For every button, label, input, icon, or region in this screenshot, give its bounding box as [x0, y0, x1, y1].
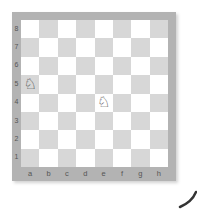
square-c2[interactable]: [58, 130, 76, 148]
square-c5[interactable]: [58, 75, 76, 93]
square-a8[interactable]: [21, 20, 39, 38]
square-a6[interactable]: [21, 57, 39, 75]
square-f2[interactable]: [113, 130, 131, 148]
file-label-h: h: [150, 169, 168, 178]
file-label-a: a: [21, 169, 39, 178]
chess-board: ♘♘: [21, 20, 168, 167]
square-e2[interactable]: [95, 130, 113, 148]
square-e8[interactable]: [95, 20, 113, 38]
square-b6[interactable]: [39, 57, 57, 75]
square-e1[interactable]: [95, 149, 113, 167]
square-h8[interactable]: [150, 20, 168, 38]
square-f3[interactable]: [113, 112, 131, 130]
square-c8[interactable]: [58, 20, 76, 38]
square-c1[interactable]: [58, 149, 76, 167]
square-c7[interactable]: [58, 38, 76, 56]
square-f6[interactable]: [113, 57, 131, 75]
square-b4[interactable]: [39, 94, 57, 112]
square-g5[interactable]: [131, 75, 149, 93]
square-d4[interactable]: [76, 94, 94, 112]
square-e5[interactable]: [95, 75, 113, 93]
chess-diagram: ♘♘ 87654321 abcdefgh: [0, 0, 197, 210]
square-g1[interactable]: [131, 149, 149, 167]
file-label-b: b: [39, 169, 57, 178]
square-b7[interactable]: [39, 38, 57, 56]
white-knight-icon[interactable]: ♘: [23, 77, 36, 92]
square-h6[interactable]: [150, 57, 168, 75]
square-b1[interactable]: [39, 149, 57, 167]
square-d1[interactable]: [76, 149, 94, 167]
rank-label-2: 2: [12, 135, 21, 142]
square-f1[interactable]: [113, 149, 131, 167]
rank-label-8: 8: [12, 25, 21, 32]
square-b8[interactable]: [39, 20, 57, 38]
square-e4[interactable]: ♘: [95, 94, 113, 112]
square-g7[interactable]: [131, 38, 149, 56]
square-c4[interactable]: [58, 94, 76, 112]
rank-label-7: 7: [12, 43, 21, 50]
square-f7[interactable]: [113, 38, 131, 56]
square-d2[interactable]: [76, 130, 94, 148]
page-curl-icon: [178, 190, 197, 210]
square-g3[interactable]: [131, 112, 149, 130]
square-c3[interactable]: [58, 112, 76, 130]
square-d5[interactable]: [76, 75, 94, 93]
square-a3[interactable]: [21, 112, 39, 130]
square-g8[interactable]: [131, 20, 149, 38]
square-a2[interactable]: [21, 130, 39, 148]
square-h4[interactable]: [150, 94, 168, 112]
square-e7[interactable]: [95, 38, 113, 56]
square-h7[interactable]: [150, 38, 168, 56]
square-b3[interactable]: [39, 112, 57, 130]
square-d7[interactable]: [76, 38, 94, 56]
square-a4[interactable]: [21, 94, 39, 112]
square-f4[interactable]: [113, 94, 131, 112]
square-f5[interactable]: [113, 75, 131, 93]
square-e3[interactable]: [95, 112, 113, 130]
square-d6[interactable]: [76, 57, 94, 75]
square-a1[interactable]: [21, 149, 39, 167]
square-c6[interactable]: [58, 57, 76, 75]
square-a7[interactable]: [21, 38, 39, 56]
square-a5[interactable]: ♘: [21, 75, 39, 93]
square-d3[interactable]: [76, 112, 94, 130]
square-g6[interactable]: [131, 57, 149, 75]
square-h5[interactable]: [150, 75, 168, 93]
rank-label-1: 1: [12, 153, 21, 160]
rank-label-5: 5: [12, 80, 21, 87]
square-d8[interactable]: [76, 20, 94, 38]
square-f8[interactable]: [113, 20, 131, 38]
square-b2[interactable]: [39, 130, 57, 148]
file-label-d: d: [76, 169, 94, 178]
white-knight-icon[interactable]: ♘: [97, 95, 110, 110]
square-h1[interactable]: [150, 149, 168, 167]
file-label-f: f: [113, 169, 131, 178]
file-label-g: g: [131, 169, 149, 178]
file-label-c: c: [58, 169, 76, 178]
square-h3[interactable]: [150, 112, 168, 130]
rank-label-4: 4: [12, 98, 21, 105]
square-h2[interactable]: [150, 130, 168, 148]
square-g4[interactable]: [131, 94, 149, 112]
square-e6[interactable]: [95, 57, 113, 75]
square-g2[interactable]: [131, 130, 149, 148]
rank-label-3: 3: [12, 117, 21, 124]
square-b5[interactable]: [39, 75, 57, 93]
rank-label-6: 6: [12, 61, 21, 68]
file-label-e: e: [95, 169, 113, 178]
